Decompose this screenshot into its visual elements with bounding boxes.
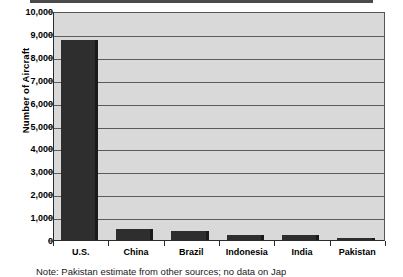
bar-slot [165, 13, 220, 240]
bar[interactable] [171, 231, 205, 240]
x-axis-label-pakistan: Pakistan [339, 247, 376, 257]
bar-slot [275, 13, 330, 240]
y-tick-label: 8,000 [5, 53, 53, 63]
bar[interactable] [337, 238, 371, 240]
bottom-caption-cutoff: Note: Pakistan estimate from other sourc… [36, 266, 286, 277]
bar-slot [54, 13, 109, 240]
y-tick-label: 3,000 [5, 167, 53, 177]
plot-area [53, 12, 385, 241]
bar[interactable] [61, 40, 95, 240]
caption-text: Note: Pakistan estimate from other sourc… [36, 266, 286, 277]
x-tick-mark [330, 241, 331, 246]
y-tick-label: 0 [5, 236, 53, 246]
page-top-cutoff-band [30, 0, 373, 3]
x-tick-mark [219, 241, 220, 246]
x-axis-label-u-s: U.S. [72, 247, 90, 257]
bar-slot [331, 13, 386, 240]
bar[interactable] [116, 229, 150, 240]
y-tick-label: 9,000 [5, 30, 53, 40]
x-axis-label-indonesia: Indonesia [226, 247, 268, 257]
x-tick-mark [108, 241, 109, 246]
y-tick-label: 6,000 [5, 99, 53, 109]
bar-series [54, 13, 384, 240]
bar-slot [220, 13, 275, 240]
x-tick-mark [274, 241, 275, 246]
y-axis: 01,0002,0003,0004,0005,0006,0007,0008,00… [0, 12, 53, 241]
x-axis-label-india: India [291, 247, 312, 257]
y-tick-label: 7,000 [5, 76, 53, 86]
y-tick-label: 4,000 [5, 144, 53, 154]
x-axis-label-brazil: Brazil [179, 247, 204, 257]
x-tick-mark [164, 241, 165, 246]
bar[interactable] [227, 235, 261, 240]
bar-slot [109, 13, 164, 240]
chart-figure: Number of Aircraft 01,0002,0003,0004,000… [0, 0, 403, 277]
x-tick-mark [53, 241, 54, 246]
x-tick-mark [385, 241, 386, 246]
y-tick-label: 2,000 [5, 190, 53, 200]
x-axis-label-china: China [123, 247, 148, 257]
y-tick-label: 10,000 [5, 7, 53, 17]
bar[interactable] [282, 235, 316, 240]
y-tick-label: 1,000 [5, 213, 53, 223]
y-tick-label: 5,000 [5, 122, 53, 132]
